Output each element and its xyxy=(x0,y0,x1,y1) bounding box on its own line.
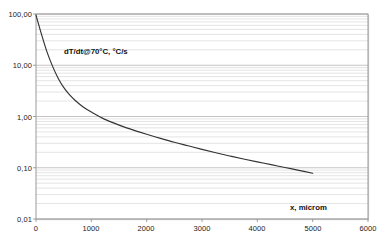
x-tick-label-5000: 5000 xyxy=(293,224,333,233)
y-tick-label-0-10: 0,10 xyxy=(2,164,32,173)
y-tick-label-100: 100,00 xyxy=(2,10,32,19)
series-annotation-label: dT/dt@70°C, °C/s xyxy=(64,47,128,56)
x-tick-label-1000: 1000 xyxy=(71,224,111,233)
y-tick-label-10: 10,00 xyxy=(2,61,32,70)
x-tick-label-3000: 3000 xyxy=(182,224,222,233)
x-tick-label-4000: 4000 xyxy=(237,224,277,233)
y-tick-label-0-01: 0,01 xyxy=(2,215,32,224)
chart-plot-svg xyxy=(0,0,386,248)
x-axis-title: x, microm xyxy=(290,203,327,212)
y-tick-label-1: 1,00 xyxy=(2,113,32,122)
x-tick-label-0: 0 xyxy=(16,224,56,233)
chart-container: 100,00 10,00 1,00 0,10 0,01 0 1000 2000 … xyxy=(0,0,386,248)
x-tick-label-2000: 2000 xyxy=(126,224,166,233)
x-tick-label-6000: 6000 xyxy=(348,224,386,233)
